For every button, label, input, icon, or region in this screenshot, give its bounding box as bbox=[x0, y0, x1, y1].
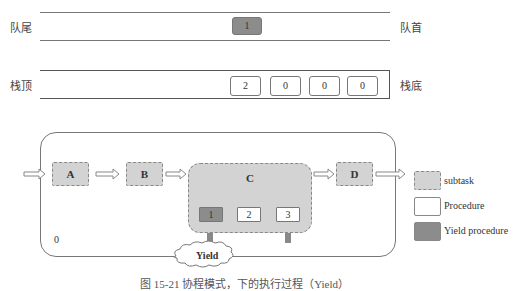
subtask-a: A bbox=[52, 162, 89, 186]
subtask-c: C bbox=[188, 163, 312, 233]
figure-caption: 图 15-21 协程模式，下的执行过程（Yield） bbox=[140, 275, 349, 291]
arrow-right-icon bbox=[376, 169, 405, 179]
arrow-right-icon bbox=[314, 169, 334, 179]
procedure: 2 bbox=[237, 207, 261, 222]
legend-label-subtask: subtask bbox=[444, 175, 474, 186]
cloud-label: Yield bbox=[196, 250, 218, 261]
arrow-right-icon bbox=[96, 169, 119, 179]
legend-label-yield-procedure: Yield procedure bbox=[444, 225, 508, 236]
legend-swatch-yield-procedure bbox=[414, 222, 441, 241]
procedure: 3 bbox=[276, 207, 300, 222]
subtask-d: D bbox=[336, 162, 373, 186]
subtask-b: B bbox=[126, 162, 163, 186]
legend-swatch-subtask bbox=[414, 171, 441, 190]
legend-swatch-procedure bbox=[414, 197, 441, 216]
legend-label-procedure: Procedure bbox=[444, 200, 485, 211]
corner-label: 0 bbox=[54, 234, 59, 245]
subtask-c-label: C bbox=[189, 172, 311, 184]
procedure-yield: 1 bbox=[199, 207, 223, 222]
arrow-right-icon bbox=[24, 169, 45, 179]
arrow-right-icon bbox=[166, 169, 186, 179]
